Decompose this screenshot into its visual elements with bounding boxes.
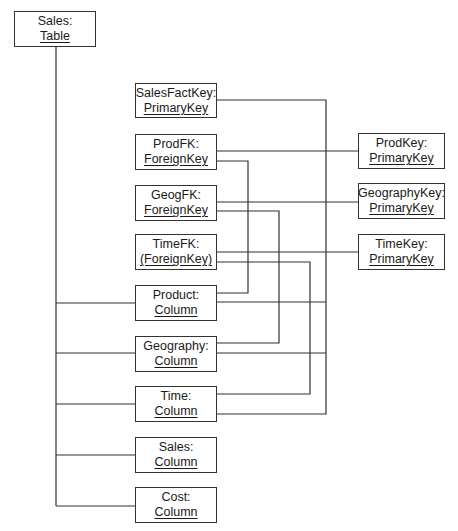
object-box-timefk[interactable]: TimeFK: (ForeignKey) xyxy=(135,234,217,270)
object-type: Column xyxy=(154,404,197,419)
diagram-canvas: Sales: Table SalesFactKey: PrimaryKey Pr… xyxy=(0,0,458,531)
object-type: PrimaryKey xyxy=(369,252,434,267)
object-box-prodkey[interactable]: ProdKey: PrimaryKey xyxy=(358,133,445,169)
object-name: GeographyKey: xyxy=(358,186,445,201)
object-box-geographykey[interactable]: GeographyKey: PrimaryKey xyxy=(358,183,445,219)
object-type: ForeignKey xyxy=(144,152,208,167)
object-box-product-col[interactable]: Product: Column xyxy=(135,285,217,321)
object-name: TimeKey: xyxy=(375,237,427,252)
object-box-geography-col[interactable]: Geography: Column xyxy=(135,336,217,372)
object-name: ProdKey: xyxy=(376,136,427,151)
object-type: Column xyxy=(154,505,197,520)
connector-timefk-to-time xyxy=(217,262,310,394)
object-type: Column xyxy=(154,303,197,318)
object-name: ProdFK: xyxy=(153,137,199,152)
object-type: Column xyxy=(154,455,197,470)
object-type: ForeignKey xyxy=(144,203,208,218)
object-name: Product: xyxy=(153,288,200,303)
object-name: Time: xyxy=(161,389,192,404)
object-box-sales-col[interactable]: Sales: Column xyxy=(135,437,217,473)
object-type: PrimaryKey xyxy=(369,201,434,216)
object-name: Sales: xyxy=(159,440,194,455)
object-box-time-col[interactable]: Time: Column xyxy=(135,386,217,422)
object-box-geogfk[interactable]: GeogFK: ForeignKey xyxy=(135,185,217,221)
object-box-timekey[interactable]: TimeKey: PrimaryKey xyxy=(358,234,445,270)
object-box-cost-col[interactable]: Cost: Column xyxy=(135,487,217,523)
object-box-sales-table[interactable]: Sales: Table xyxy=(14,11,96,47)
object-name: TimeFK: xyxy=(153,237,200,252)
object-type: Column xyxy=(154,354,197,369)
object-type: (ForeignKey) xyxy=(140,252,212,267)
object-name: SalesFactKey: xyxy=(136,86,217,101)
object-name: Cost: xyxy=(161,490,190,505)
object-type: Table xyxy=(40,29,70,44)
object-type: PrimaryKey xyxy=(144,101,209,116)
object-box-prodfk[interactable]: ProdFK: ForeignKey xyxy=(135,134,217,170)
object-name: Geography: xyxy=(143,339,208,354)
object-type: PrimaryKey xyxy=(369,151,434,166)
object-name: GeogFK: xyxy=(151,188,201,203)
object-name: Sales: xyxy=(38,14,73,29)
object-box-salesfactkey[interactable]: SalesFactKey: PrimaryKey xyxy=(135,83,217,118)
connector-prodfk-to-product xyxy=(217,161,248,293)
